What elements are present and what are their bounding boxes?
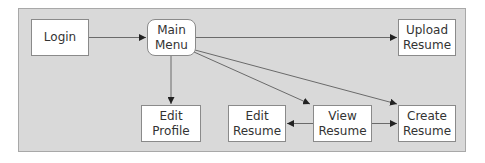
node-label: View Resume [318,109,366,139]
node-label: Edit Profile [152,109,189,139]
node-label: Edit Resume [233,109,281,139]
node-create-resume: Create Resume [398,105,456,142]
node-label: Main Menu [155,23,188,53]
node-edit-resume: Edit Resume [228,105,286,142]
node-label: Upload Resume [403,23,451,53]
node-main-menu: Main Menu [147,19,196,56]
node-login: Login [31,19,89,56]
node-label: Create Resume [403,109,451,139]
node-label: Login [44,30,76,45]
node-view-resume: View Resume [313,105,372,142]
node-upload-resume: Upload Resume [398,19,456,56]
node-edit-profile: Edit Profile [141,105,201,142]
